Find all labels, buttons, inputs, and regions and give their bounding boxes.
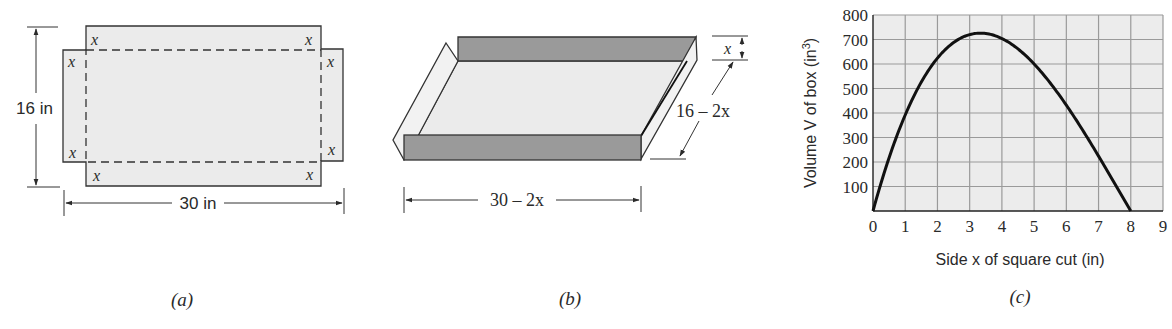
x-tick-label: 5 <box>1030 217 1039 236</box>
wall-height-dimension: x <box>712 36 748 60</box>
x-tick-label: 6 <box>1062 217 1071 236</box>
box-width-dimension: 30 – 2x <box>404 186 641 213</box>
width-label: 30 in <box>180 194 217 213</box>
y-tick-label: 500 <box>843 80 869 99</box>
y-axis-label-end: ) <box>802 38 819 43</box>
x-tick-label: 9 <box>1159 217 1168 236</box>
corner-label: x <box>326 53 334 70</box>
y-tick-label: 300 <box>843 129 869 148</box>
corner-label: x <box>92 167 100 184</box>
x-tick-label: 1 <box>901 217 910 236</box>
y-axis-label-main: Volume V of box (in <box>802 49 819 188</box>
x-tick-label: 2 <box>933 217 942 236</box>
panel-b-folded-box: x 16 – 2x 30 – 2x (b) <box>393 36 748 310</box>
y-tick-label: 100 <box>843 178 869 197</box>
y-tick-labels: 100200300400500600700800 <box>843 6 869 197</box>
corner-label: x <box>90 31 98 48</box>
figure-stage: x x x x x x x x 16 in 30 in (a) <box>0 0 1172 329</box>
box-front-wall <box>404 135 641 160</box>
box-back-wall <box>458 37 696 61</box>
height-dimension: 16 in <box>16 27 60 187</box>
y-tick-label: 800 <box>843 6 869 25</box>
depth-label: 16 – 2x <box>676 101 730 121</box>
panel-c-volume-chart: 100200300400500600700800 0123456789 Volu… <box>800 6 1167 308</box>
y-tick-label: 200 <box>843 153 869 172</box>
width-dimension: 30 in <box>64 188 344 216</box>
x-tick-label: 0 <box>869 217 878 236</box>
x-tick-label: 4 <box>998 217 1007 236</box>
panel-a-caption: (a) <box>171 289 193 311</box>
corner-label: x <box>305 166 313 183</box>
box-width-label: 30 – 2x <box>490 190 544 210</box>
y-tick-label: 600 <box>843 55 869 74</box>
corner-label: x <box>304 31 312 48</box>
y-tick-label: 700 <box>843 31 869 50</box>
corner-label: x <box>327 141 335 158</box>
x-tick-label: 7 <box>1094 217 1103 236</box>
panel-c-caption: (c) <box>1009 286 1030 308</box>
height-label: 16 in <box>16 99 53 118</box>
x-tick-labels: 0123456789 <box>869 217 1168 236</box>
corner-label: x <box>68 144 76 161</box>
panel-b-caption: (b) <box>559 288 581 310</box>
corner-label: x <box>67 53 75 70</box>
y-tick-label: 400 <box>843 104 869 123</box>
wall-height-label: x <box>723 40 731 57</box>
panel-a-flat-sheet: x x x x x x x x 16 in 30 in (a) <box>16 26 344 311</box>
x-tick-label: 8 <box>1127 217 1136 236</box>
figure-svg: x x x x x x x x 16 in 30 in (a) <box>0 0 1172 329</box>
x-axis-label: Side x of square cut (in) <box>936 251 1105 268</box>
x-tick-label: 3 <box>965 217 974 236</box>
y-axis-label: Volume V of box (in3) <box>800 38 819 188</box>
